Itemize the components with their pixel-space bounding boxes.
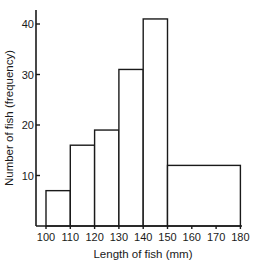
y-tick-label: 10 — [22, 170, 34, 182]
x-tick-label: 120 — [85, 231, 103, 243]
histogram-bars — [46, 19, 240, 226]
y-axis-title: Number of fish (frequency) — [3, 50, 15, 186]
y-tick-label: 40 — [22, 18, 34, 30]
histogram-bar — [168, 165, 241, 226]
histogram-bar — [70, 145, 94, 226]
x-tick-label: 170 — [207, 231, 225, 243]
x-tick-label: 150 — [158, 231, 176, 243]
x-tick-label: 100 — [37, 231, 55, 243]
histogram-bar — [95, 130, 119, 226]
x-tick-label: 110 — [62, 231, 80, 243]
x-tick-label: 180 — [231, 231, 249, 243]
x-axis-ticks: 100110120130140150160170180 — [37, 226, 250, 243]
y-tick-label: 30 — [22, 69, 34, 81]
histogram-bar — [46, 191, 70, 226]
y-tick-label: 20 — [22, 119, 34, 131]
x-tick-label: 160 — [183, 231, 201, 243]
histogram-chart: 10203040 100110120130140150160170180 Len… — [0, 0, 255, 271]
x-tick-label: 140 — [134, 231, 152, 243]
histogram-bar — [119, 69, 143, 226]
x-tick-label: 130 — [110, 231, 128, 243]
y-axis-ticks: 10203040 — [22, 18, 40, 182]
histogram-bar — [143, 19, 167, 226]
x-axis-title: Length of fish (mm) — [93, 248, 192, 260]
